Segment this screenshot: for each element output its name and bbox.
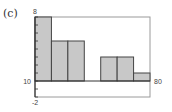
histogram-bar	[117, 57, 133, 81]
histogram-bar	[51, 41, 67, 81]
histogram-chart: 81080-2	[0, 0, 172, 112]
histogram-bar	[68, 41, 84, 81]
histogram-bar	[101, 57, 117, 81]
x-max-label: 80	[154, 78, 162, 85]
histogram-bars	[35, 17, 150, 81]
y-min-label: -2	[32, 99, 38, 106]
y-max-label: 8	[33, 8, 37, 15]
x-min-label: 10	[23, 78, 31, 85]
histogram-bar	[134, 73, 150, 81]
